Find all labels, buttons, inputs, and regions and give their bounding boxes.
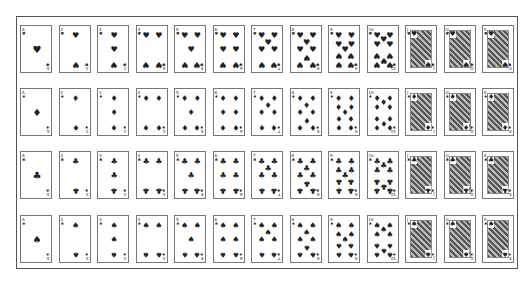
spades-pip-icon: ♠ [220, 250, 227, 258]
card-j-of-hearts[interactable]: J ♥J ♥♥♥ [405, 25, 437, 73]
face-card-portrait-icon: ♠♠ [449, 220, 471, 258]
clubs-pip-icon: ♣ [194, 186, 201, 194]
card-10-of-spades[interactable]: 10 ♠10 ♠♠♠♠♠♠♠♠♠♠♠ [367, 215, 399, 263]
card-3-of-spades[interactable]: 3 ♠3 ♠♠♠♠ [97, 215, 129, 263]
card-index-bottom: 5 ♣ [200, 188, 204, 196]
clubs-pip-icon: ♣ [348, 167, 355, 175]
card-index-top: 9 ♠ [330, 218, 334, 226]
diamonds-pip-icon: ♦ [271, 95, 278, 103]
card-index-bottom: 9 ♠ [354, 252, 358, 260]
card-2-of-spades[interactable]: 2 ♠2 ♠♠♠ [59, 215, 91, 263]
card-7-of-hearts[interactable]: 7 ♥7 ♥♥♥♥♥♥♥♥ [251, 25, 283, 73]
card-10-of-clubs[interactable]: 10 ♣10 ♣♣♣♣♣♣♣♣♣♣♣ [367, 151, 399, 199]
card-9-of-spades[interactable]: 9 ♠9 ♠♠♠♠♠♠♠♠♠♠ [328, 215, 360, 263]
card-5-of-clubs[interactable]: 5 ♣5 ♣♣♣♣♣♣ [174, 151, 206, 199]
card-9-of-clubs[interactable]: 9 ♣9 ♣♣♣♣♣♣♣♣♣♣ [328, 151, 360, 199]
spades-pip-icon: ♠ [271, 222, 278, 230]
card-index-bottom: 9 ♣ [354, 188, 358, 196]
card-k-of-diamonds[interactable]: K ♦K ♦♦♦ [482, 88, 514, 136]
card-index-top: 3 ♠ [99, 218, 103, 226]
spades-pip-icon: ♠ [220, 222, 227, 230]
card-9-of-hearts[interactable]: 9 ♥9 ♥♥♥♥♥♥♥♥♥♥ [328, 25, 360, 73]
card-7-of-clubs[interactable]: 7 ♣7 ♣♣♣♣♣♣♣♣ [251, 151, 283, 199]
diamonds-pip-icon: ♦ [258, 123, 265, 131]
card-5-of-diamonds[interactable]: 5 ♦5 ♦♦♦♦♦♦ [174, 88, 206, 136]
card-j-of-clubs[interactable]: J ♣J ♣♣♣ [405, 151, 437, 199]
card-6-of-clubs[interactable]: 6 ♣6 ♣♣♣♣♣♣♣ [213, 151, 245, 199]
card-5-of-hearts[interactable]: 5 ♥5 ♥♥♥♥♥♥ [174, 25, 206, 73]
spades-pip-icon: ♠ [374, 250, 381, 258]
card-3-of-diamonds[interactable]: 3 ♦3 ♦♦♦♦ [97, 88, 129, 136]
card-7-of-diamonds[interactable]: 7 ♦7 ♦♦♦♦♦♦♦♦ [251, 88, 283, 136]
spades-pip-icon: ♠ [348, 241, 355, 249]
card-4-of-spades[interactable]: 4 ♠4 ♠♠♠♠♠ [136, 215, 168, 263]
card-k-of-hearts[interactable]: K ♥K ♥♥♥ [482, 25, 514, 73]
card-q-of-spades[interactable]: Q ♠Q ♠♠♠ [444, 215, 476, 263]
hearts-pip-icon: ♥ [374, 41, 381, 49]
card-k-of-clubs[interactable]: K ♣K ♣♣♣ [482, 151, 514, 199]
card-6-of-hearts[interactable]: 6 ♥6 ♥♥♥♥♥♥♥ [213, 25, 245, 73]
card-7-of-spades[interactable]: 7 ♠7 ♠♠♠♠♠♠♠♠ [251, 215, 283, 263]
spades-pip-icon: ♠ [232, 250, 239, 258]
clubs-pip-icon: ♣ [386, 167, 393, 175]
card-q-of-hearts[interactable]: Q ♥Q ♥♥♥ [444, 25, 476, 73]
diamonds-pip-icon: ♦ [309, 123, 316, 131]
card-j-of-spades[interactable]: J ♠J ♠♠♠ [405, 215, 437, 263]
card-j-of-diamonds[interactable]: J ♦J ♦♦♦ [405, 88, 437, 136]
hearts-pip-icon: ♥ [297, 60, 304, 68]
card-index-bottom: 7 ♦ [277, 125, 281, 133]
card-index-bottom: 9 ♥ [354, 62, 358, 70]
card-6-of-spades[interactable]: 6 ♠6 ♠♠♠♠♠♠♠ [213, 215, 245, 263]
card-k-of-spades[interactable]: K ♠K ♠♠♠ [482, 215, 514, 263]
card-a-of-hearts[interactable]: A ♥A ♥♥ [20, 25, 52, 73]
diamonds-pip-icon: ♦ [374, 104, 381, 112]
card-5-of-spades[interactable]: 5 ♠5 ♠♠♠♠♠♠ [174, 215, 206, 263]
card-8-of-spades[interactable]: 8 ♠8 ♠♠♠♠♠♠♠♠♠ [290, 215, 322, 263]
card-a-of-diamonds[interactable]: A ♦A ♦♦ [20, 88, 52, 136]
card-2-of-hearts[interactable]: 2 ♥2 ♥♥♥ [59, 25, 91, 73]
card-4-of-hearts[interactable]: 4 ♥4 ♥♥♥♥♥ [136, 25, 168, 73]
card-a-of-clubs[interactable]: A ♣A ♣♣ [20, 151, 52, 199]
card-index-bottom: 2 ♦ [85, 125, 89, 133]
diamonds-pip-icon: ♦ [143, 95, 150, 103]
card-3-of-hearts[interactable]: 3 ♥3 ♥♥♥♥ [97, 25, 129, 73]
card-4-of-clubs[interactable]: 4 ♣4 ♣♣♣♣♣ [136, 151, 168, 199]
face-card-portrait-icon: ♥♥ [487, 30, 509, 68]
diamonds-pip-icon: ♦ [72, 95, 79, 103]
card-q-of-diamonds[interactable]: Q ♦Q ♦♦♦ [444, 88, 476, 136]
spades-pip-icon: ♠ [309, 250, 316, 258]
card-index-bottom: 5 ♦ [200, 125, 204, 133]
card-index-top: A ♣ [22, 154, 26, 162]
card-a-of-spades[interactable]: A ♠A ♠♠ [20, 215, 52, 263]
clubs-pip-icon: ♣ [72, 158, 79, 166]
card-8-of-diamonds[interactable]: 8 ♦8 ♦♦♦♦♦♦♦♦♦ [290, 88, 322, 136]
hearts-pip-icon: ♥ [271, 32, 278, 40]
card-8-of-clubs[interactable]: 8 ♣8 ♣♣♣♣♣♣♣♣♣ [290, 151, 322, 199]
diamonds-pip-icon: ♦ [348, 104, 355, 112]
diamonds-pip-icon: ♦ [297, 123, 304, 131]
card-9-of-diamonds[interactable]: 9 ♦9 ♦♦♦♦♦♦♦♦♦♦ [328, 88, 360, 136]
spades-pip-icon: ♠ [335, 241, 342, 249]
card-2-of-diamonds[interactable]: 2 ♦2 ♦♦♦ [59, 88, 91, 136]
card-index-top: A ♠ [22, 218, 26, 226]
clubs-pip-icon: ♣ [297, 186, 304, 194]
hearts-pip-icon: ♥ [258, 60, 265, 68]
card-6-of-diamonds[interactable]: 6 ♦6 ♦♦♦♦♦♦♦ [213, 88, 245, 136]
card-10-of-hearts[interactable]: 10 ♥10 ♥♥♥♥♥♥♥♥♥♥♥ [367, 25, 399, 73]
card-q-of-clubs[interactable]: Q ♣Q ♣♣♣ [444, 151, 476, 199]
card-10-of-diamonds[interactable]: 10 ♦10 ♦♦♦♦♦♦♦♦♦♦♦ [367, 88, 399, 136]
diamonds-pip-icon: ♦ [335, 95, 342, 103]
spades-pip-icon: ♠ [348, 250, 355, 258]
clubs-pip-icon: ♣ [110, 172, 117, 180]
card-8-of-hearts[interactable]: 8 ♥8 ♥♥♥♥♥♥♥♥♥ [290, 25, 322, 73]
hearts-pip-icon: ♥ [309, 32, 316, 40]
spades-pip-icon: ♠ [386, 250, 393, 258]
card-4-of-diamonds[interactable]: 4 ♦4 ♦♦♦♦♦ [136, 88, 168, 136]
hearts-pip-icon: ♥ [72, 32, 79, 40]
clubs-pip-icon: ♣ [348, 158, 355, 166]
card-3-of-clubs[interactable]: 3 ♣3 ♣♣♣♣ [97, 151, 129, 199]
clubs-pip-icon: ♣ [110, 186, 117, 194]
card-2-of-clubs[interactable]: 2 ♣2 ♣♣♣ [59, 151, 91, 199]
face-card-portrait-icon: ♦♦ [449, 93, 471, 131]
hearts-pip-icon: ♥ [143, 60, 150, 68]
